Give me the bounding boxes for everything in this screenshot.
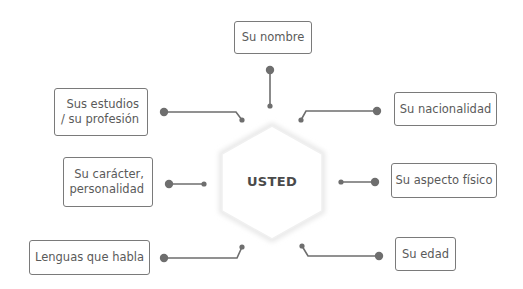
node-nombre: Su nombre [234,21,312,54]
node-label: Sus estudios / su profesión [59,97,139,127]
node-nacionalidad: Su nacionalidad [394,92,497,126]
node-label: Su nacionalidad [400,102,492,117]
node-label: Su carácter, personalidad [68,167,144,197]
node-lenguas: Lenguas que habla [29,240,150,275]
node-label: Su edad [402,247,449,262]
node-caracter: Su carácter, personalidad [63,157,153,207]
node-label: Su aspecto físico [396,173,493,188]
node-edad: Su edad [395,237,456,271]
center-label: USTED [232,174,312,189]
node-label: Lenguas que habla [35,250,144,265]
node-estudios: Sus estudios / su profesión [54,88,148,136]
node-label: Su nombre [242,30,305,45]
node-aspecto: Su aspecto físico [391,163,497,198]
